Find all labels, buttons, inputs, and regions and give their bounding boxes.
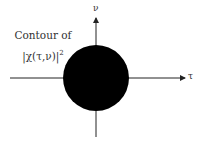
ambiguity-function-label: |χ(τ,ν)| <box>22 50 59 62</box>
tau-axis-label: τ <box>188 71 193 81</box>
caption-exponent: 2 <box>59 49 63 57</box>
caption-line2: |χ(τ,ν)|2 <box>4 44 82 65</box>
contour-caption: Contour of |χ(τ,ν)|2 <box>4 26 82 65</box>
diagram-svg <box>0 0 203 144</box>
nu-axis-label: ν <box>93 3 98 13</box>
ambiguity-diagram: Contour of |χ(τ,ν)|2 ν τ <box>0 0 203 144</box>
caption-line1: Contour of <box>4 26 82 44</box>
